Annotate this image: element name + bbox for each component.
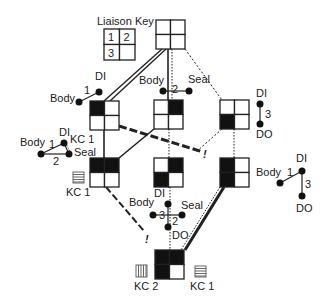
di-part-dot [299,168,306,175]
state-node-upper-left [90,101,119,130]
liaison-cell-2 [235,100,250,115]
body-label: Body [139,74,165,86]
diagram-canvas: ! ! Liaison Key 1 2 3 Body 1 DI Body 2 S… [0,0,324,306]
di-label: DI [95,70,106,82]
liaison-cell-4 [169,173,184,188]
liaison-cell-2 [171,20,186,35]
connection-lines [104,49,234,250]
di-part-dot [257,101,264,108]
liaison-cell-3 [220,173,235,188]
body-label: Body [20,136,46,148]
body-label: Body [256,166,282,178]
liaison-key-cell-1: 1 [108,31,114,43]
liaison-cell-4 [170,265,185,280]
liaison-cell-3 [220,115,235,130]
liaison-1-label: 1 [49,138,55,150]
liaison-3-label: 3 [305,178,311,190]
liaison-3-label: 3 [265,108,271,120]
edge-upper-right-to-infeasible [196,129,222,152]
infeasible-marker-upper: ! [203,148,207,160]
seal-part-dot [186,88,193,95]
liaison-cell-2 [105,101,120,116]
state-node-lower-right [220,158,249,187]
vertical-hatch-icon [136,265,147,277]
di-part-dot [96,89,103,96]
state-node-lower-left [90,158,119,187]
body-part-dot [76,99,83,106]
di-part-dot [61,140,68,147]
state-node-bottom [155,250,184,279]
liaison-cell-1 [90,158,105,173]
liaison-key-cell-3: 3 [108,47,114,59]
liaison-2-label: 2 [172,83,178,95]
kc1-label: KC 1 [70,133,94,145]
liaison-cell-3 [154,173,169,188]
horizontal-hatch-icon [73,172,84,183]
liaison-key: Liaison Key 1 2 3 [97,15,154,60]
do-label: DO [296,202,313,214]
seal-label: Seal [181,199,203,211]
horizontal-hatch-icon [195,266,206,277]
liaison-cell-2 [169,100,184,115]
di-label: DI [59,126,70,138]
liaison-2-label: 2 [172,215,178,227]
liaison-cell-1 [154,100,169,115]
kc1-label: KC 1 [190,280,214,292]
seal-label: Seal [188,73,210,85]
liaison-key-cell-2: 2 [124,31,130,43]
liaison-cell-3 [90,116,105,131]
body-part-dot [277,180,284,187]
di-label: DI [256,87,267,99]
kc1-left-icon-group: KC 1 [66,172,90,198]
liaison-cell-3 [90,173,105,188]
liaison-1-label: 1 [287,166,293,178]
liaison-cell-2 [235,158,250,173]
liaison-cell-4 [171,35,186,50]
do-label: DO [256,128,273,140]
liaison-cell-4 [169,115,184,130]
liaison-cell-1 [156,20,171,35]
liaison-cell-3 [154,115,169,130]
kc1-bottom-icon-group: KC 1 [190,266,214,292]
liaison-cell-4 [105,116,120,131]
do-part-dot [165,224,172,231]
body-label: Body [129,196,155,208]
di-part-dot [165,201,172,208]
di-label: DI [154,187,165,199]
seal-part-dot [179,212,186,219]
do-part-dot [257,121,264,128]
liaison-graph-lower-right: Body 1 DI 3 DO [256,152,313,214]
liaison-cell-2 [170,250,185,265]
body-part-dot [160,88,167,95]
liaison-graph-upper-left: Body 1 DI [50,70,106,106]
body-part-dot [38,151,45,158]
liaison-cell-4 [235,173,250,188]
body-label: Body [50,92,76,104]
liaison-cell-3 [156,35,171,50]
edge-lower-left-to-infeasible [106,187,144,231]
liaison-graph-upper-right: DI 3 DO [256,87,273,140]
do-part-dot [299,193,306,200]
liaison-1-label: 1 [84,84,90,96]
liaison-cell-2 [105,158,120,173]
kc2-label: KC 2 [134,280,158,292]
infeasible-marker-lower: ! [145,233,149,245]
liaison-cell-1 [90,101,105,116]
state-node-upper-right [220,100,249,129]
state-node-top [156,20,185,49]
liaison-key-title: Liaison Key [97,15,154,27]
liaison-cell-1 [155,250,170,265]
liaison-cell-4 [235,115,250,130]
liaison-cell-4 [105,173,120,188]
liaison-graph-lower-center: DI Body 3 Seal 2 DO [129,187,203,241]
do-label: DO [172,229,189,241]
state-node-lower-center [154,158,183,187]
state-node-upper-center [154,100,183,129]
liaison-graph-lower-left: Body 1 DI KC 1 Seal 2 [20,126,96,167]
kc1-label: KC 1 [66,186,90,198]
liaison-cell-1 [154,158,169,173]
di-label: DI [296,152,307,164]
liaison-cell-1 [220,158,235,173]
liaison-2-label: 2 [53,155,59,167]
liaison-3-label: 3 [159,209,165,221]
